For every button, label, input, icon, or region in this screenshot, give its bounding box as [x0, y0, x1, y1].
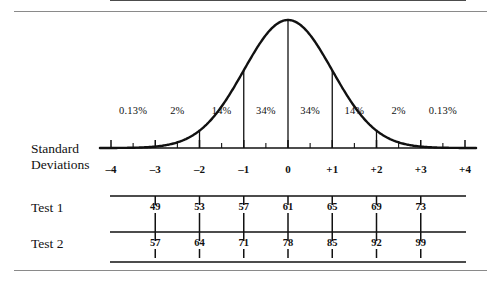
test2-row-label: Test 2	[31, 236, 63, 252]
test2-value-label-2: 71	[239, 237, 250, 248]
standard-deviation-axis	[110, 140, 466, 148]
test1-value-label-5: 69	[371, 201, 382, 212]
test1-value-label-4: 65	[327, 201, 338, 212]
standard-deviations-label-line1: Standard	[31, 141, 79, 157]
percent-band-label-3: 34%	[256, 105, 276, 116]
test2-value-label-5: 92	[371, 237, 382, 248]
test1-value-label-6: 73	[416, 201, 427, 212]
test1-value-label-2: 57	[239, 201, 250, 212]
percent-band-label-1: 2%	[170, 105, 184, 116]
sd-tick-label-7: +3	[415, 163, 427, 175]
test2-value-label-6: 99	[416, 237, 427, 248]
test2-value-label-3: 78	[283, 237, 294, 248]
test1-value-label-1: 53	[194, 201, 205, 212]
percent-band-label-5: 14%	[344, 105, 364, 116]
percent-band-label-4: 34%	[300, 105, 320, 116]
test1-value-label-0: 49	[150, 201, 161, 212]
test2-value-label-1: 64	[194, 237, 205, 248]
sd-tick-label-4: 0	[285, 163, 291, 175]
percent-band-label-7: 0.13%	[429, 105, 457, 116]
test2-value-label-4: 85	[327, 237, 338, 248]
percent-band-label-6: 2%	[391, 105, 405, 116]
sd-tick-label-5: +1	[326, 163, 338, 175]
normal-curve-figure: Standard Deviations Test 1 Test 2 0.13%2…	[0, 0, 500, 282]
test1-row-label: Test 1	[31, 200, 63, 216]
standard-deviations-label-line2: Deviations	[31, 157, 90, 173]
sd-tick-label-1: –3	[150, 163, 161, 175]
percent-band-label-0: 0.13%	[119, 105, 147, 116]
sd-tick-label-2: –2	[194, 163, 205, 175]
drop-lines-layer	[155, 20, 421, 148]
sd-tick-label-0: –4	[106, 163, 117, 175]
sd-tick-label-8: +4	[459, 163, 471, 175]
percent-band-label-2: 14%	[212, 105, 232, 116]
sd-tick-label-3: –1	[238, 163, 249, 175]
test1-value-label-3: 61	[283, 201, 294, 212]
sd-tick-label-6: +2	[371, 163, 383, 175]
test2-value-label-0: 57	[150, 237, 161, 248]
